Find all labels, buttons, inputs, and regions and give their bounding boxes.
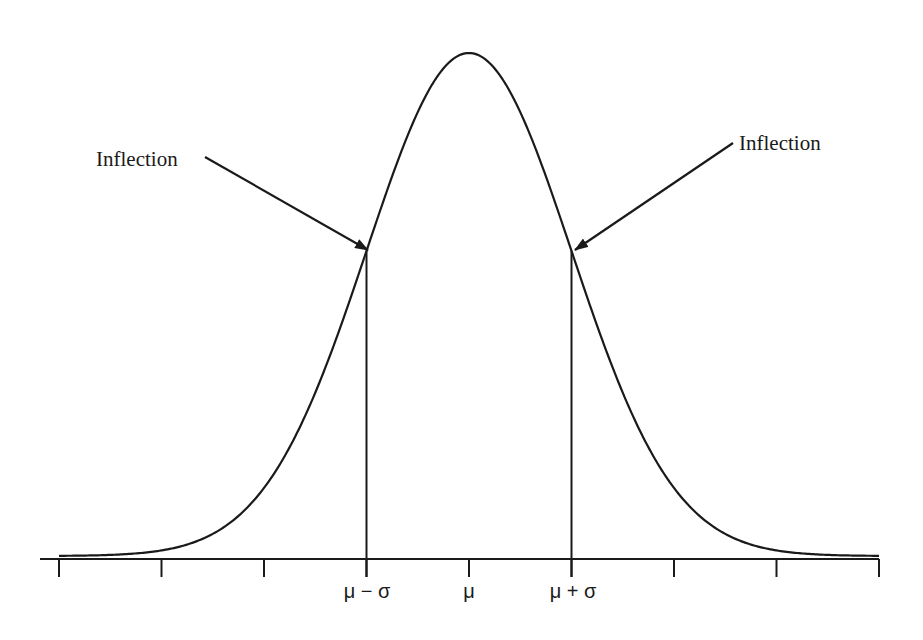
inflection-label-left: Inflection [96, 147, 178, 171]
tick-label-mu: μ [463, 580, 475, 602]
tick-label-mu-plus-sigma: μ + σ [550, 580, 597, 602]
arrow-left-icon [205, 157, 368, 250]
x-axis-ticks [59, 559, 879, 577]
inflection-label-right: Inflection [739, 131, 821, 155]
bell-curve [59, 53, 879, 556]
normal-curve-figure: Inflection Inflection μ − σ μ μ + σ [0, 0, 923, 640]
arrow-right-icon [575, 143, 733, 250]
tick-label-mu-minus-sigma: μ − σ [344, 580, 391, 602]
